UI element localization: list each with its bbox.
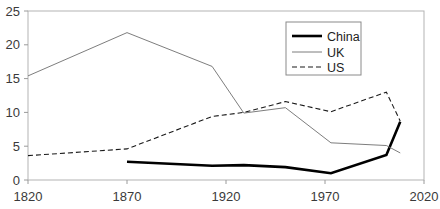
y-axis-tick-label: 20: [6, 37, 20, 52]
legend-label-china: China: [327, 30, 360, 44]
series-line-us: [28, 92, 400, 156]
legend-label-us: US: [327, 61, 344, 75]
y-axis-tick-label: 25: [6, 4, 20, 19]
x-axis-tick-label: 1820: [14, 189, 43, 204]
y-axis-tick-label: 15: [6, 71, 20, 86]
y-axis-tick-label: 0: [13, 173, 20, 188]
plot-frame: [28, 11, 424, 180]
legend-label-uk: UK: [327, 46, 345, 60]
y-axis-tick-label: 5: [13, 139, 20, 154]
x-axis-tick-label: 1920: [212, 189, 241, 204]
x-axis-tick-label: 2020: [410, 189, 439, 204]
line-chart: 051015202518201870192019702020ChinaUKUS: [0, 0, 440, 209]
y-axis-tick-label: 10: [6, 105, 20, 120]
x-axis-tick-label: 1870: [113, 189, 142, 204]
series-line-china: [127, 122, 400, 173]
chart-canvas: 051015202518201870192019702020ChinaUKUS: [0, 0, 440, 209]
x-axis-tick-label: 1970: [311, 189, 340, 204]
